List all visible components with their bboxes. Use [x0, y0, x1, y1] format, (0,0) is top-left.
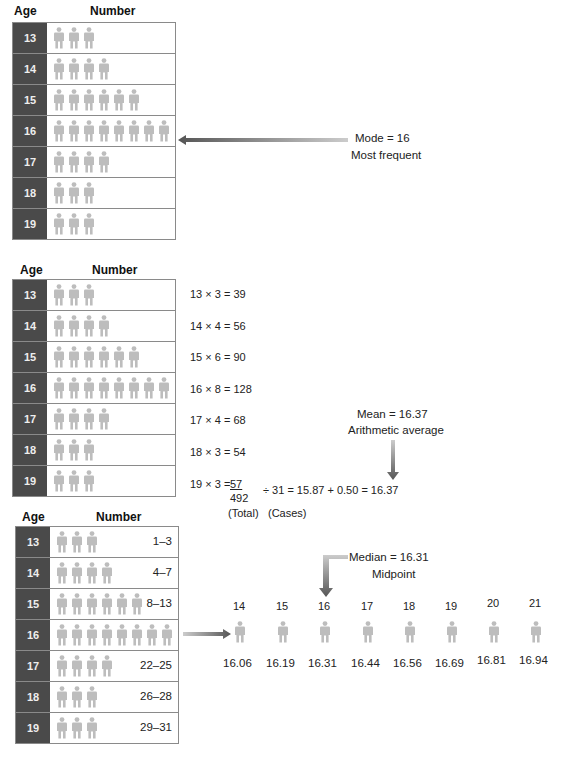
person-icon	[68, 27, 80, 49]
equation-18: 18 × 3 = 54	[190, 446, 246, 458]
age-cell: 15	[13, 85, 47, 115]
person-icon	[68, 151, 80, 173]
person-icon	[234, 621, 246, 643]
position-number: 17	[361, 600, 373, 612]
mean-sublabel: Arithmetic average	[348, 424, 444, 436]
person-icon	[68, 408, 80, 430]
figures-cell	[47, 147, 175, 177]
case-range: 22–25	[140, 659, 172, 671]
table-row: 19	[13, 209, 175, 239]
mode-table: 13141516171819	[12, 22, 176, 240]
person-icon	[83, 408, 95, 430]
person-icon	[56, 593, 68, 615]
person-icon	[277, 621, 289, 643]
figures-cell	[47, 85, 175, 115]
person-icon	[113, 120, 125, 142]
person-icon	[71, 655, 83, 677]
total-label: (Total)	[228, 507, 259, 519]
table-row: 14	[13, 311, 175, 342]
person-icon	[83, 470, 95, 492]
table-row: 19	[13, 466, 175, 496]
table-row: 15	[13, 342, 175, 373]
person-icon	[128, 89, 140, 111]
number-header-2: Number	[92, 263, 137, 277]
person-icon	[53, 58, 65, 80]
person-icon	[68, 213, 80, 235]
person-icon	[56, 717, 68, 739]
table-row: 144–7	[16, 558, 178, 589]
figures-cell	[47, 311, 175, 341]
person-icon	[68, 120, 80, 142]
table-row: 13	[13, 23, 175, 54]
person-icon	[83, 58, 95, 80]
median-table: 131–3144–7158–13161722–251826–281929–31	[15, 526, 179, 744]
person-icon	[68, 377, 80, 399]
person-icon	[83, 182, 95, 204]
person-icon	[68, 346, 80, 368]
figures-cell: 4–7	[50, 558, 178, 588]
person-icon	[158, 377, 170, 399]
person-icon	[71, 624, 83, 646]
age-cell: 13	[13, 280, 47, 310]
person-icon	[362, 621, 374, 643]
person-icon	[98, 120, 110, 142]
median-label: Median = 16.31	[349, 551, 429, 563]
equation-19-value: 57	[230, 478, 242, 490]
position-number: 18	[403, 600, 415, 612]
case-range: 4–7	[153, 566, 172, 578]
person-icon	[131, 624, 143, 646]
mode-sublabel: Most frequent	[351, 149, 421, 161]
person-icon	[86, 531, 98, 553]
person-icon	[53, 377, 65, 399]
person-icon	[98, 346, 110, 368]
person-icon	[56, 624, 68, 646]
person-icon	[83, 315, 95, 337]
table-row: 18	[13, 435, 175, 466]
person-icon	[83, 284, 95, 306]
position-value: 16.81	[477, 654, 506, 666]
figures-cell: 1–3	[50, 527, 178, 557]
age-cell: 13	[13, 23, 47, 53]
person-icon	[128, 377, 140, 399]
age-cell: 16	[13, 373, 47, 403]
position-value: 16.56	[393, 657, 422, 669]
figures-cell	[47, 209, 175, 239]
figures-cell: 22–25	[50, 651, 178, 681]
equation-14: 14 × 4 = 56	[190, 320, 246, 332]
number-header-3: Number	[96, 510, 141, 524]
age-cell: 18	[16, 682, 50, 712]
equation-19-prefix: 19 × 3 =	[190, 478, 230, 490]
position-number: 21	[529, 597, 541, 609]
person-icon	[530, 621, 542, 643]
mean-table: 13141516171819	[12, 279, 176, 497]
figures-cell	[47, 342, 175, 372]
mean-calculation: ÷ 31 = 15.87 + 0.50 = 16.37	[263, 484, 398, 496]
age-cell: 15	[13, 342, 47, 372]
person-icon	[71, 593, 83, 615]
person-icon	[83, 27, 95, 49]
table-row: 16	[16, 620, 178, 651]
person-icon	[83, 377, 95, 399]
mode-arrow-icon	[178, 133, 353, 147]
table-row: 17	[13, 147, 175, 178]
person-icon	[446, 621, 458, 643]
figures-cell	[47, 466, 175, 496]
person-icon	[131, 593, 143, 615]
median-sublabel: Midpoint	[372, 568, 415, 580]
median-arrow-icon	[318, 554, 350, 598]
person-icon	[53, 470, 65, 492]
case-range: 8–13	[146, 597, 172, 609]
person-icon	[71, 562, 83, 584]
position-value: 16.44	[351, 657, 380, 669]
age-cell: 14	[13, 311, 47, 341]
equation-15: 15 × 6 = 90	[190, 351, 246, 363]
age-cell: 13	[16, 527, 50, 557]
person-icon	[56, 686, 68, 708]
person-icon	[53, 182, 65, 204]
age-cell: 17	[13, 404, 47, 434]
person-icon	[83, 213, 95, 235]
figures-cell	[47, 178, 175, 208]
person-icon	[68, 284, 80, 306]
table-row: 158–13	[16, 589, 178, 620]
person-icon	[86, 624, 98, 646]
